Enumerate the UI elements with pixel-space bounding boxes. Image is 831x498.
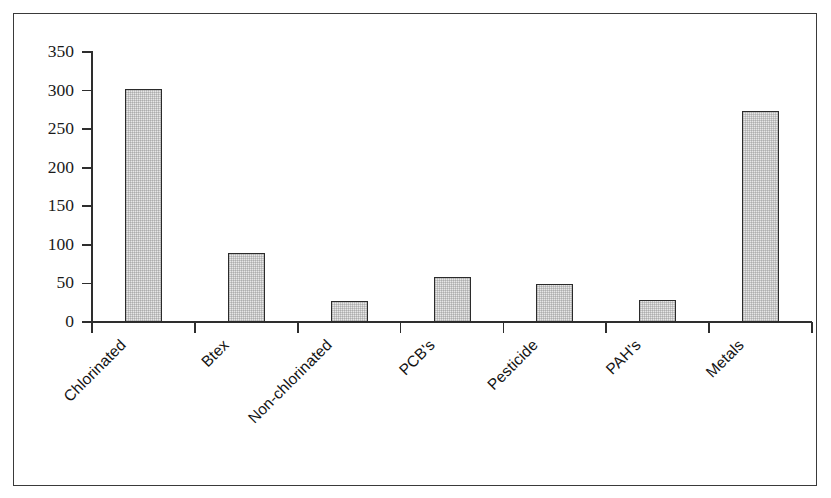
chart-figure: 050100150200250300350 ChlorinatedBtexNon… xyxy=(0,0,831,498)
y-axis-tick-label-text: 100 xyxy=(28,236,74,254)
y-axis-tick-label-text: 250 xyxy=(28,120,74,138)
bar-btex xyxy=(228,253,265,322)
y-axis-tick-label-text: 150 xyxy=(28,197,74,215)
y-axis-tick-label-text: 50 xyxy=(28,274,74,292)
y-axis-tick xyxy=(82,244,92,246)
y-axis-tick-label: 150 xyxy=(28,197,74,215)
y-axis-tick xyxy=(82,167,92,169)
y-axis-tick-label: 300 xyxy=(28,82,74,100)
y-axis-tick-label: 50 xyxy=(28,274,74,292)
y-axis-tick-label: 0 xyxy=(28,313,74,331)
y-axis-tick-label-text: 350 xyxy=(28,43,74,61)
x-axis-tick xyxy=(194,322,196,333)
bar-pesticide xyxy=(536,284,573,322)
y-axis-tick xyxy=(82,128,92,130)
y-axis-tick-label: 100 xyxy=(28,236,74,254)
bar-chlorinated xyxy=(125,89,162,322)
x-axis-tick xyxy=(400,322,402,333)
bar-series xyxy=(92,52,812,322)
y-axis-tick xyxy=(82,51,92,53)
bar-pah-s xyxy=(639,300,676,322)
y-axis-tick xyxy=(82,90,92,92)
x-axis-tick xyxy=(708,322,710,333)
bar-metals xyxy=(742,111,779,322)
y-axis-tick-label: 200 xyxy=(28,159,74,177)
x-axis-tick xyxy=(605,322,607,333)
x-axis-tick xyxy=(811,322,813,333)
y-axis-tick-label-text: 300 xyxy=(28,82,74,100)
bar-pcb-s xyxy=(434,277,471,323)
y-axis-tick-label-text: 0 xyxy=(28,313,74,331)
x-axis-tick xyxy=(91,322,93,333)
y-axis-tick xyxy=(82,283,92,285)
y-axis-tick-label: 350 xyxy=(28,43,74,61)
x-axis-tick xyxy=(297,322,299,333)
y-axis-tick-label: 250 xyxy=(28,120,74,138)
bar-non-chlorinated xyxy=(331,301,368,322)
y-axis-tick-group: 050100150200250300350 xyxy=(0,0,92,498)
x-axis-tick xyxy=(503,322,505,333)
y-axis-tick-label-text: 200 xyxy=(28,159,74,177)
y-axis-tick xyxy=(82,205,92,207)
